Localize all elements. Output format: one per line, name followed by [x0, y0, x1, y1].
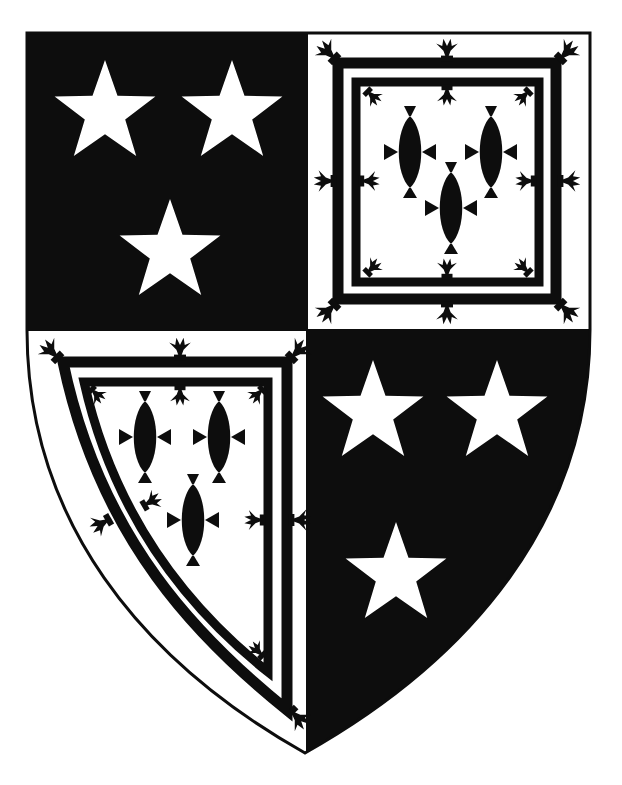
- shield-field: [0, 0, 622, 785]
- quarter-3-field: [0, 330, 307, 785]
- shield-svg: [0, 0, 622, 785]
- coat-of-arms: Quarterly coat of arms: [0, 0, 622, 785]
